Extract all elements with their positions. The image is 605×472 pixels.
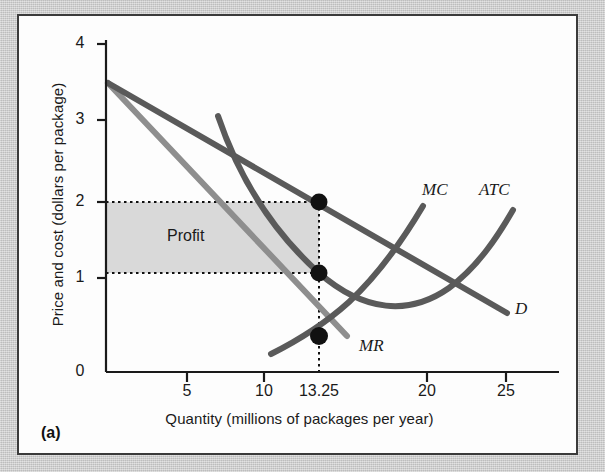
- atc-curve: [218, 116, 513, 306]
- d-curve-label: D: [515, 299, 527, 319]
- profit-label: Profit: [167, 227, 204, 245]
- x-tick-label-25: 25: [489, 382, 523, 400]
- mc-curve-label: MC: [422, 180, 448, 200]
- x-tick-label-13-25: 13.25: [289, 382, 349, 400]
- x-tick-label-20: 20: [410, 382, 444, 400]
- y-tick-label-2: 2: [69, 192, 91, 210]
- y-tick-label-1: 1: [69, 268, 91, 286]
- y-tick-label-3: 3: [69, 110, 91, 128]
- figure-panel: 4 3 2 1 0 5 10 13.25 20 25 MC ATC D MR P…: [17, 14, 578, 455]
- x-tick-label-10: 10: [247, 382, 281, 400]
- y-axis-title: Price and cost (dollars per package): [49, 55, 66, 355]
- profit-maximizing-price-point: [311, 194, 328, 211]
- y-tick-label-4: 4: [69, 34, 91, 52]
- y-tick-label-0: 0: [69, 362, 91, 380]
- mr-equals-mc-point: [310, 327, 328, 345]
- figure-screenshot: 4 3 2 1 0 5 10 13.25 20 25 MC ATC D MR P…: [0, 0, 605, 472]
- mr-curve-label: MR: [359, 336, 384, 356]
- x-tick-label-5: 5: [172, 382, 202, 400]
- x-axis-title: Quantity (millions of packages per year): [19, 410, 580, 427]
- panel-letter: (a): [41, 424, 61, 442]
- atc-curve-label: ATC: [479, 180, 510, 200]
- average-total-cost-point: [311, 265, 328, 282]
